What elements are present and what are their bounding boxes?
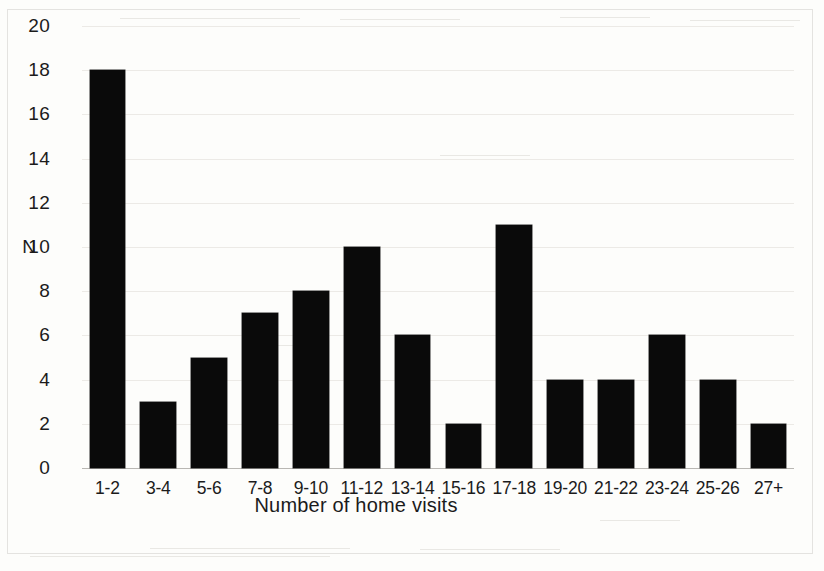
x-axis-tick-label: 27+ [754, 478, 783, 499]
bar [496, 225, 532, 468]
y-axis-tick-label: 12 [10, 192, 50, 214]
bar [90, 70, 126, 468]
y-axis-tick-label: 20 [10, 15, 50, 37]
x-axis-baseline [82, 468, 794, 469]
x-axis-title: Number of home visits [0, 494, 712, 517]
y-axis-tick-label: 4 [10, 369, 50, 391]
gridline [82, 335, 794, 336]
gridline [82, 424, 794, 425]
gridline [82, 114, 794, 115]
gridline [82, 26, 794, 27]
plot-area: 02468101214161820N1-23-45-67-89-1011-121… [82, 26, 794, 468]
bar [140, 402, 176, 468]
bar [751, 424, 787, 468]
y-axis-tick-label: 18 [10, 59, 50, 81]
bar [242, 313, 278, 468]
bar [344, 247, 380, 468]
y-axis-tick-label: 16 [10, 103, 50, 125]
gridline [82, 291, 794, 292]
bar-chart-figure: 02468101214161820N1-23-45-67-89-1011-121… [0, 0, 824, 571]
bar [446, 424, 482, 468]
bar [547, 380, 583, 468]
bar [598, 380, 634, 468]
bar [649, 335, 685, 468]
gridline [82, 70, 794, 71]
gridline [82, 203, 794, 204]
bar [293, 291, 329, 468]
bar [700, 380, 736, 468]
y-axis-tick-label: 8 [10, 280, 50, 302]
bar [191, 358, 227, 469]
gridline [82, 247, 794, 248]
y-axis-tick-label: 2 [10, 413, 50, 435]
y-axis-tick-label: 14 [10, 148, 50, 170]
gridline [82, 159, 794, 160]
y-axis-tick-label: 0 [10, 457, 50, 479]
y-axis-tick-label: 6 [10, 324, 50, 346]
bar [395, 335, 431, 468]
gridline [82, 380, 794, 381]
y-axis-title: N [8, 236, 36, 258]
